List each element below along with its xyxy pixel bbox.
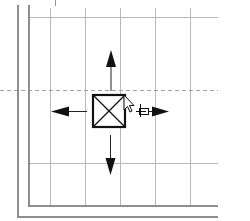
move-left-arrow-icon[interactable] xyxy=(51,107,87,117)
move-up-arrow-icon[interactable] xyxy=(106,50,116,91)
move-down-arrow-icon[interactable] xyxy=(106,135,116,175)
drawing-canvas[interactable] xyxy=(0,0,250,221)
selected-element[interactable] xyxy=(93,95,125,127)
move-copy-badge-icon xyxy=(136,104,149,117)
